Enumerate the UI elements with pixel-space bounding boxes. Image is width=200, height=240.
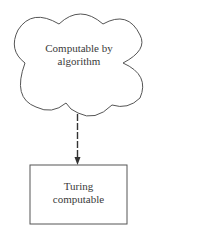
cloud-label-line-1: Computable by — [29, 42, 129, 55]
cloud-label-line-2: algorithm — [29, 55, 129, 68]
cloud-label: Computable by algorithm — [29, 42, 129, 68]
box-label-line-1: Turing — [30, 180, 127, 193]
arrowhead-icon — [75, 157, 81, 165]
box-label: Turing computable — [30, 180, 127, 206]
box-label-line-2: computable — [30, 193, 127, 206]
